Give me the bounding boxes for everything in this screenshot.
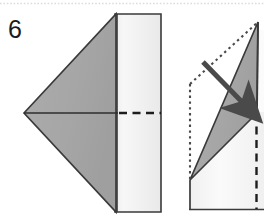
origami-diagram-canvas: 6 [0,0,264,222]
step-number-label: 6 [8,15,22,43]
left-folded-model [24,14,161,212]
white-edge-sliver [258,30,264,112]
right-solid-edge [257,22,258,113]
origami-illustration: 6 [0,0,264,222]
right-folded-model [189,22,264,210]
